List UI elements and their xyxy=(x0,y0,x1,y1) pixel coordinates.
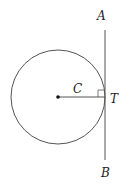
right-angle-marker xyxy=(98,90,105,97)
center-point xyxy=(56,95,60,99)
label-a: A xyxy=(96,9,106,23)
label-t: T xyxy=(110,92,119,106)
label-c: C xyxy=(73,82,82,96)
tangent-diagram: A B C T xyxy=(0,0,126,184)
label-b: B xyxy=(100,166,110,180)
